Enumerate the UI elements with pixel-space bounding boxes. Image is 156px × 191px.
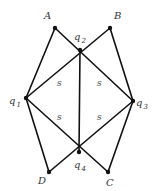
vertex-D (47, 170, 51, 174)
vertex-label-A: A (43, 10, 51, 21)
face-label-1: s (97, 78, 102, 88)
vertex-q1 (24, 96, 28, 100)
vertex-label-D: D (37, 175, 46, 186)
graph-diagram: ABq2q1q3q4DC ssss (0, 0, 156, 191)
vertex-label-q4: q4 (74, 159, 86, 173)
edge-q2-q4 (79, 50, 80, 152)
face-label-0: s (57, 78, 62, 88)
vertex-q2 (78, 48, 82, 52)
vertex-labels: ABq2q1q3q4DC (9, 10, 148, 188)
vertex-label-q3: q3 (136, 97, 148, 111)
vertex-label-C: C (106, 177, 114, 188)
vertex-C (106, 170, 110, 174)
face-label-2: s (57, 112, 62, 122)
vertex-q3 (131, 99, 135, 103)
vertex-label-B: B (113, 10, 121, 21)
edge-A-q1 (26, 28, 55, 98)
vertex-label-q1: q1 (9, 95, 21, 109)
vertex-q4 (77, 150, 81, 154)
vertex-B (108, 26, 112, 30)
vertex-A (53, 26, 57, 30)
vertex-label-q2: q2 (74, 31, 86, 45)
face-label-3: s (97, 112, 102, 122)
